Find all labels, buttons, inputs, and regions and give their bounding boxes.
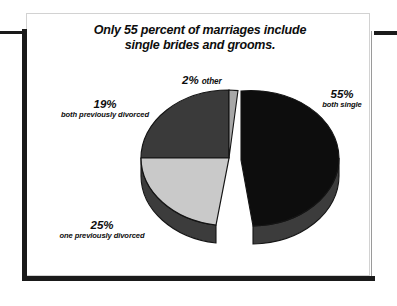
- slice-top-other: [229, 90, 238, 158]
- slice-top-one-previously-divorced: [141, 158, 229, 225]
- slice-label-one-previously-divorced-text: one previously divorced: [32, 231, 172, 240]
- slice-label-other-text: other: [202, 77, 222, 86]
- slice-label-both-single-text: both single: [312, 100, 372, 109]
- pie-chart: [0, 0, 397, 306]
- slice-label-one-previously-divorced-percent: 25%: [32, 219, 172, 231]
- slice-label-other-percent: 2%: [182, 74, 199, 86]
- slice-label-both-single: 55% both single: [312, 88, 372, 109]
- chart-screenshot: Only 55 percent of marriages include sin…: [0, 0, 397, 306]
- slice-label-both-previously-divorced: 19% both previously divorced: [38, 98, 172, 119]
- slice-label-one-previously-divorced: 25% one previously divorced: [32, 219, 172, 240]
- slice-label-other: 2%other: [182, 70, 222, 88]
- slice-label-both-previously-divorced-text: both previously divorced: [38, 110, 172, 119]
- slice-label-both-previously-divorced-percent: 19%: [38, 98, 172, 110]
- slice-label-both-single-percent: 55%: [312, 88, 372, 100]
